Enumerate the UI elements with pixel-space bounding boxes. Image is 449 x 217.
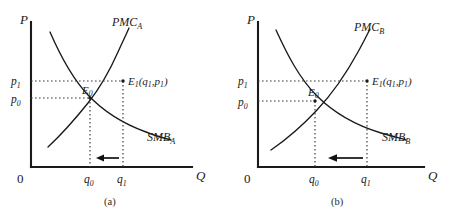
quantity-reduction-arrow [328, 154, 363, 162]
svg-text:PMCA: PMCA [111, 15, 143, 31]
pmc-b-label: PMCB [353, 20, 384, 36]
svg-text:q1: q1 [361, 173, 371, 188]
svg-text:SMBB: SMBB [382, 130, 410, 146]
pmc-b-curve [271, 29, 370, 150]
p0-tick-label: p0 [10, 93, 21, 108]
svg-text:PMCB: PMCB [353, 20, 384, 36]
pmc-a-label: PMCA [111, 15, 143, 31]
y-axis-label: P [19, 12, 28, 27]
e0-label: E0 [307, 86, 319, 100]
panel-a: P Q 0 p1 p0 q0 q1 PMCA SMBA [0, 0, 225, 217]
x-axis-label: Q [428, 168, 438, 183]
e0-label: E0 [81, 84, 93, 98]
e1-point-marker [365, 79, 368, 82]
x-axis-label: Q [196, 168, 206, 183]
quantity-reduction-arrow [96, 154, 119, 161]
panel-a-chart: P Q 0 p1 p0 q0 q1 PMCA SMBA [0, 0, 225, 217]
svg-text:E1(q1,p1): E1(q1,p1) [127, 75, 168, 89]
svg-text:q0: q0 [309, 173, 319, 188]
svg-text:E0: E0 [81, 84, 93, 98]
svg-text:q0: q0 [84, 173, 94, 188]
panel-b-chart: P Q 0 p1 p0 q0 q1 PMCB SMBB [225, 0, 449, 217]
q0-tick-label: q0 [84, 173, 94, 188]
e1-point-marker [121, 79, 124, 82]
svg-text:q1: q1 [117, 173, 127, 188]
panel-b-caption: (b) [331, 196, 344, 208]
q1-tick-label: q1 [361, 173, 371, 188]
p1-tick-label: p1 [237, 75, 248, 90]
smb-b-label: SMBB [382, 130, 410, 146]
svg-text:p1: p1 [10, 75, 21, 90]
p1-tick-label: p1 [10, 75, 21, 90]
svg-text:E0: E0 [307, 86, 319, 100]
economics-figure: P Q 0 p1 p0 q0 q1 PMCA SMBA [0, 0, 449, 217]
q0-tick-label: q0 [309, 173, 319, 188]
y-axis-label: P [246, 12, 255, 27]
e1-label: E1(q1,p1) [371, 75, 412, 89]
p0-tick-label: p0 [237, 96, 248, 111]
origin-label: 0 [244, 171, 251, 186]
smb-a-label: SMBA [147, 130, 176, 146]
svg-text:p0: p0 [237, 96, 248, 111]
q1-tick-label: q1 [117, 173, 127, 188]
svg-text:p1: p1 [237, 75, 248, 90]
svg-text:SMBA: SMBA [147, 130, 176, 146]
panel-a-caption: (a) [104, 196, 116, 208]
svg-text:E1(q1,p1): E1(q1,p1) [371, 75, 412, 89]
svg-text:p0: p0 [10, 93, 21, 108]
panel-b: P Q 0 p1 p0 q0 q1 PMCB SMBB [225, 0, 449, 217]
origin-label: 0 [17, 171, 24, 186]
e1-label: E1(q1,p1) [127, 75, 168, 89]
